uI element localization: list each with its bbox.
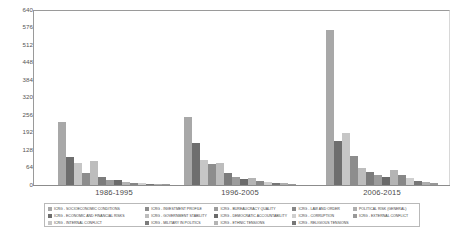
legend-label: ICRG - ECONOMIC AND FINANCIAL RISKS [54, 214, 125, 218]
legend-item[interactable]: ICRG - INTERNAL CONFLICT [48, 220, 142, 226]
y-axis-tick-label: 64 [3, 164, 33, 170]
bar [240, 179, 248, 185]
legend-item[interactable]: ICRG - BUREAUCRACY QUALITY [214, 206, 289, 212]
bar [326, 30, 334, 185]
legend-item[interactable]: POLITICAL RISK (GENERAL) [353, 206, 414, 212]
legend-label: ICRG - INVESTMENT PROFILE [151, 207, 202, 211]
bar [264, 182, 272, 185]
bar [138, 183, 146, 185]
y-axis-tick-label: 320 [3, 94, 33, 100]
bar [66, 157, 74, 185]
legend-label: ICRG - DEMOCRATIC ACCOUNTABILITY [220, 214, 287, 218]
bar [216, 163, 224, 185]
bar [406, 178, 414, 185]
bar [248, 178, 256, 185]
y-axis-tick-label: 256 [3, 112, 33, 118]
chart-legend: ICRG - SOCIOECONOMIC CONDITIONSICRG - EC… [44, 203, 420, 227]
legend-column: ICRG - LAW AND ORDERICRG - CORRUPTIONICR… [292, 206, 350, 227]
bar [430, 183, 438, 185]
legend-label: ICRG - BUREAUCRACY QUALITY [220, 207, 275, 211]
legend-label: ICRG - CORRUPTION [298, 214, 334, 218]
bar [334, 141, 342, 185]
bar [130, 183, 138, 185]
legend-swatch-icon [292, 207, 296, 211]
y-axis-tick-label: 192 [3, 129, 33, 135]
legend-label: ICRG - GOVERNMENT STABILITY [151, 214, 207, 218]
bar [114, 180, 122, 185]
bar [366, 172, 374, 185]
bar [232, 177, 240, 185]
legend-label: ICRG - RELIGIOUS TENSIONS [298, 221, 348, 225]
legend-item[interactable]: ICRG - LAW AND ORDER [292, 206, 350, 212]
legend-swatch-icon [145, 214, 149, 218]
legend-swatch-icon [292, 221, 296, 225]
bar [272, 183, 280, 185]
bar [146, 184, 154, 185]
bar [162, 184, 170, 185]
legend-swatch-icon [214, 207, 218, 211]
legend-swatch-icon [214, 221, 218, 225]
legend-item[interactable]: ICRG - MILITARY IN POLITICS [145, 220, 211, 226]
legend-swatch-icon [145, 221, 149, 225]
bar-group [184, 10, 296, 185]
legend-item[interactable]: ICRG - CORRUPTION [292, 213, 350, 219]
bar [350, 156, 358, 185]
legend-swatch-icon [353, 214, 357, 218]
bar-group [326, 10, 438, 185]
bar [200, 160, 208, 185]
legend-label: ICRG - SOCIOECONOMIC CONDITIONS [54, 207, 120, 211]
legend-item[interactable]: ICRG - SOCIOECONOMIC CONDITIONS [48, 206, 142, 212]
bar [358, 168, 366, 185]
legend-label: ICRG - INTERNAL CONFLICT [54, 221, 102, 225]
legend-item[interactable]: ICRG - EXTERNAL CONFLICT [353, 213, 414, 219]
legend-swatch-icon [214, 214, 218, 218]
legend-item[interactable]: ICRG - INVESTMENT PROFILE [145, 206, 211, 212]
bar [106, 180, 114, 185]
legend-swatch-icon [292, 214, 296, 218]
bar [280, 183, 288, 185]
legend-item[interactable]: ICRG - GOVERNMENT STABILITY [145, 213, 211, 219]
legend-label: ICRG - EXTERNAL CONFLICT [359, 214, 408, 218]
bar [224, 173, 232, 185]
legend-swatch-icon [145, 207, 149, 211]
y-axis: 640576512448384320256192128640 [0, 0, 33, 242]
bar [342, 133, 350, 185]
legend-swatch-icon [48, 214, 52, 218]
legend-swatch-icon [48, 221, 52, 225]
y-axis-tick-label: 512 [3, 42, 33, 48]
chart-root: 640576512448384320256192128640 ICRG - SO… [0, 0, 461, 242]
x-axis-group-label: 2006-2015 [342, 189, 422, 197]
bar [256, 181, 264, 185]
x-axis-group-label: 1996-2005 [200, 189, 280, 197]
y-axis-tick-label: 576 [3, 24, 33, 30]
legend-label: ICRG - MILITARY IN POLITICS [151, 221, 201, 225]
bar [390, 170, 398, 185]
bar [382, 177, 390, 185]
y-axis-tick-label: 448 [3, 59, 33, 65]
bar [82, 173, 90, 185]
legend-item[interactable]: ICRG - ETHNIC TENSIONS [214, 220, 289, 226]
x-axis-group-label: 1986-1995 [74, 189, 154, 197]
bar [154, 184, 162, 185]
legend-column: ICRG - INVESTMENT PROFILEICRG - GOVERNME… [145, 206, 211, 227]
legend-label: ICRG - ETHNIC TENSIONS [220, 221, 264, 225]
bar [414, 181, 422, 185]
bar [74, 163, 82, 185]
legend-column: POLITICAL RISK (GENERAL)ICRG - EXTERNAL … [353, 206, 414, 220]
bar [184, 117, 192, 185]
legend-label: ICRG - LAW AND ORDER [298, 207, 340, 211]
y-axis-tick-label: 128 [3, 147, 33, 153]
legend-item[interactable]: ICRG - RELIGIOUS TENSIONS [292, 220, 350, 226]
y-axis-tick-label: 640 [3, 7, 33, 13]
bar [58, 122, 66, 185]
bar [90, 161, 98, 185]
bar [374, 175, 382, 185]
bar [422, 182, 430, 185]
legend-item[interactable]: ICRG - ECONOMIC AND FINANCIAL RISKS [48, 213, 142, 219]
legend-swatch-icon [353, 207, 357, 211]
bar [192, 143, 200, 185]
x-axis-line [33, 185, 450, 186]
legend-column: ICRG - SOCIOECONOMIC CONDITIONSICRG - EC… [48, 206, 142, 227]
legend-item[interactable]: ICRG - DEMOCRATIC ACCOUNTABILITY [214, 213, 289, 219]
bar [122, 182, 130, 185]
